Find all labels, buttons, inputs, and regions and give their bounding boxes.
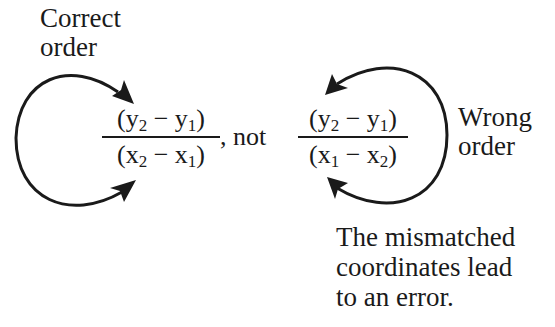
wrong-numerator: (y2 − y1): [298, 104, 408, 134]
correct-denominator: (x2 − x1): [102, 140, 220, 170]
correct-numerator: (y2 − y1): [102, 104, 220, 134]
arrowhead-top-right-icon: [325, 74, 348, 95]
error-note: The mismatched coordinates lead to an er…: [336, 222, 515, 312]
correct-order-line1: Correct: [40, 4, 121, 33]
wrong-denominator: (x1 − x2): [298, 140, 408, 170]
fraction-bar: [102, 136, 220, 138]
arrowhead-bottom-right-icon: [327, 177, 348, 199]
wrong-slope-fraction: (y2 − y1) (x1 − x2): [298, 104, 408, 170]
separator-not: , not: [220, 122, 266, 152]
arrowhead-bottom-left-icon: [110, 180, 136, 202]
fraction-bar: [298, 136, 408, 138]
wrong-order-line1: Wrong: [458, 103, 532, 132]
correct-order-label: Correct order: [40, 4, 121, 62]
arrowhead-top-left-icon: [112, 80, 134, 104]
correct-order-line2: order: [40, 33, 121, 62]
correct-slope-fraction: (y2 − y1) (x2 − x1): [102, 104, 220, 170]
wrong-order-label: Wrong order: [458, 103, 532, 161]
error-note-line1: The mismatched: [336, 222, 515, 252]
error-note-line3: to an error.: [336, 282, 515, 312]
wrong-order-line2: order: [458, 132, 532, 161]
error-note-line2: coordinates lead: [336, 252, 515, 282]
